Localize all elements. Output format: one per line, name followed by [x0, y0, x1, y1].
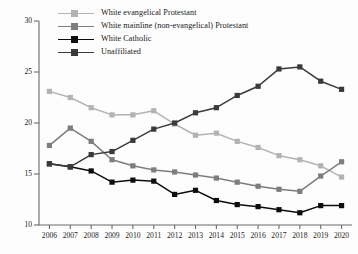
- legend-marker: [71, 49, 78, 56]
- legend-swatch-icon: [58, 33, 94, 45]
- series-2: [47, 161, 344, 215]
- y-tick-label: 10: [8, 220, 32, 229]
- legend-swatch-icon: [58, 20, 94, 32]
- legend-label: White Catholic: [101, 33, 152, 45]
- legend-item-unaffiliated[interactable]: Unaffiliated: [58, 46, 248, 58]
- legend-label: Unaffiliated: [101, 46, 141, 58]
- series-0: [47, 89, 344, 180]
- y-tick-label: 15: [8, 169, 32, 178]
- y-tick-label: 20: [8, 118, 32, 127]
- legend-label: White evangelical Protestant: [101, 7, 197, 19]
- legend-marker: [71, 10, 78, 17]
- data-series-group: [47, 64, 344, 215]
- x-tick-label: 2020: [329, 231, 355, 240]
- legend-label: White mainline (non-evangelical) Protest…: [101, 20, 248, 32]
- legend-item-white-evangelical-protestant[interactable]: White evangelical Protestant: [58, 7, 248, 19]
- series-3: [47, 64, 344, 169]
- legend-marker: [71, 36, 78, 43]
- chart-legend: White evangelical Protestant White mainl…: [58, 7, 248, 58]
- legend-marker: [71, 23, 78, 30]
- legend-swatch-icon: [58, 46, 94, 58]
- legend-swatch-icon: [58, 7, 94, 19]
- y-tick-label: 25: [8, 67, 32, 76]
- y-tick-label: 30: [8, 16, 32, 25]
- legend-item-white-catholic[interactable]: White Catholic: [58, 33, 248, 45]
- legend-item-white-mainline-protestant[interactable]: White mainline (non-evangelical) Protest…: [58, 20, 248, 32]
- chart-container: White evangelical Protestant White mainl…: [0, 0, 358, 254]
